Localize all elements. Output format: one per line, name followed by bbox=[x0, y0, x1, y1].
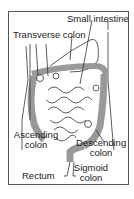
body-outline-right bbox=[108, 32, 114, 150]
label-ascending-colon: Ascending colon bbox=[13, 130, 59, 150]
label-rectum: Rectum bbox=[22, 171, 55, 181]
label-transverse-colon: Transverse colon bbox=[13, 30, 86, 40]
label-sigmoid-colon: Sigmoid colon bbox=[72, 163, 110, 183]
transverse-colon-shape bbox=[32, 66, 106, 74]
label-small-intestine: Small intestine bbox=[67, 14, 129, 24]
label-descending-colon: Descending colon bbox=[76, 138, 126, 158]
descending-colon-shape bbox=[84, 74, 104, 146]
marker-ascending bbox=[37, 75, 44, 82]
leader-rectum bbox=[64, 162, 70, 176]
